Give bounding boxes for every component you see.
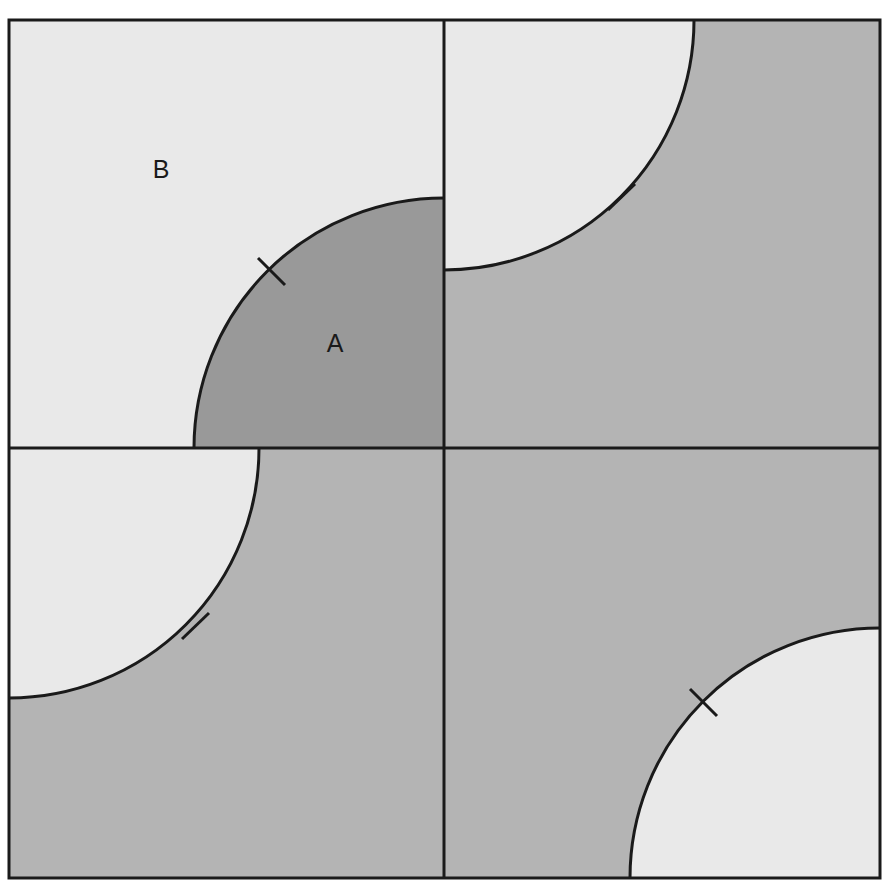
diagram-canvas: B A <box>0 0 895 896</box>
region-label-a: A <box>327 329 344 357</box>
quadrant-bottom-left <box>9 448 444 878</box>
quadrant-top-left <box>9 20 444 448</box>
region-label-b: B <box>153 155 170 183</box>
quadrant-top-right <box>444 20 880 448</box>
quadrant-arc-figure: B A <box>0 0 895 896</box>
quadrant-bottom-right <box>444 448 880 878</box>
